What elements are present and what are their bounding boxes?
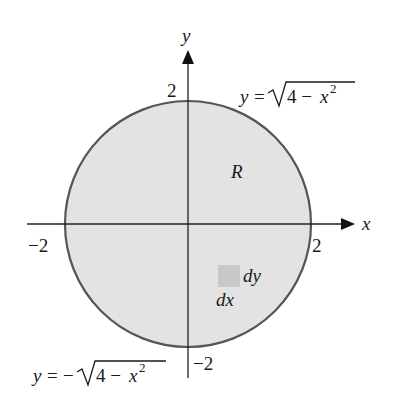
svg-text:4 −: 4 −	[287, 86, 312, 107]
x-axis-label: x	[361, 213, 371, 234]
svg-text:=: =	[254, 86, 265, 107]
upper-lhs-y: y	[238, 86, 249, 107]
svg-text:y: y	[31, 365, 42, 386]
region-diagram: x y −2 2 2 −2 R dy dx y = 4 − x 2 y = − …	[0, 0, 395, 409]
tick-pos-x: 2	[312, 235, 322, 256]
upper-curve-equation: y = 4 − x 2	[238, 81, 355, 107]
tick-neg-x: −2	[28, 235, 48, 256]
y-axis-arrow-icon	[182, 50, 194, 64]
upper-exponent: 2	[330, 81, 337, 96]
dx-label: dx	[216, 289, 235, 310]
lower-exponent: 2	[139, 360, 146, 375]
svg-text:x: x	[128, 365, 138, 386]
sqrt-sign-icon	[77, 361, 166, 385]
y-axis-label: y	[180, 25, 191, 46]
dy-label: dy	[243, 265, 262, 286]
region-label: R	[230, 161, 243, 182]
x-axis-arrow-icon	[341, 218, 355, 230]
svg-text:=: =	[47, 365, 58, 386]
area-element	[218, 265, 240, 287]
tick-neg-y: −2	[193, 353, 213, 374]
lower-curve-equation: y = − 4 − x 2	[31, 360, 166, 386]
svg-text:x: x	[319, 86, 329, 107]
tick-pos-y: 2	[167, 80, 177, 101]
svg-text:4 −: 4 −	[96, 365, 121, 386]
svg-text:−: −	[63, 365, 74, 386]
